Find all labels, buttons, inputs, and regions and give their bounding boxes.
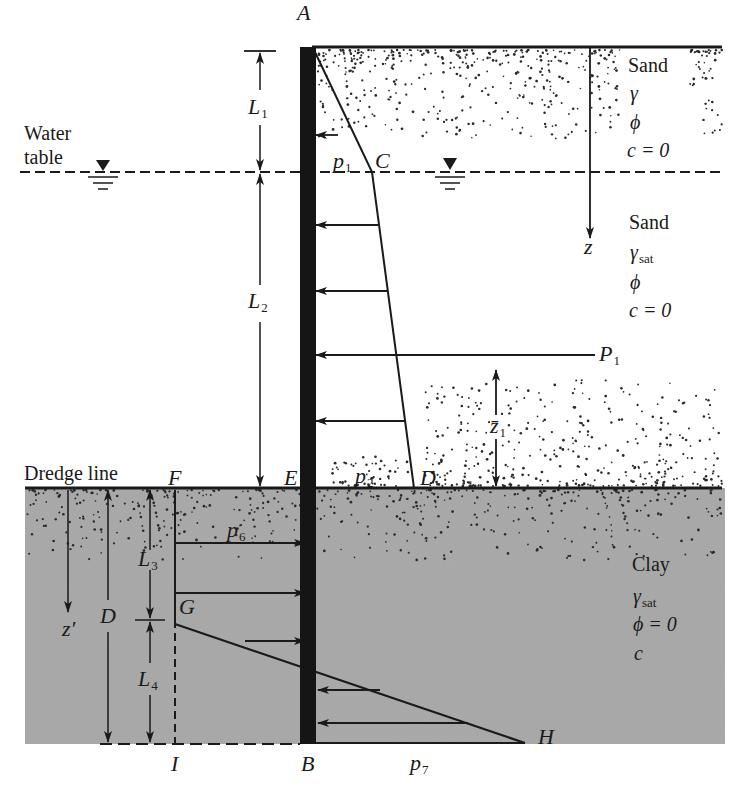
p7-label: p7 [410, 752, 429, 776]
p6-label: p6 [227, 519, 246, 543]
point-a-label: A [297, 2, 310, 24]
point-b-label: B [301, 753, 314, 775]
point-e-label: E [284, 467, 297, 489]
resultant-p1-label: P1 [599, 343, 620, 367]
sheet-pile-diagram: A C D E F G H I B L1 L2 L3 L4 D z′ z z̄1… [0, 0, 748, 788]
z1-bar-label: z̄1 [490, 415, 506, 439]
p1-label: p1 [333, 150, 352, 174]
clay-cohesion: c [634, 643, 643, 663]
water-table-symbol-left [88, 160, 118, 189]
sand-sat-phi: ϕ [630, 272, 640, 292]
dredge-line-label: Dredge line [24, 463, 118, 483]
point-g-label: G [179, 596, 195, 618]
water-table-symbol-right [435, 158, 465, 189]
d-label: D [100, 605, 116, 627]
p2-label: p2 [355, 465, 374, 489]
l4-label: L4 [138, 668, 158, 692]
sheet-pile [300, 47, 316, 744]
l1-label: L1 [248, 96, 268, 120]
sand-dry-name: Sand [628, 55, 668, 75]
point-f-label: F [168, 467, 181, 489]
clay-gamma: γsat [633, 586, 656, 609]
sand-stipple [27, 49, 724, 562]
point-h-label: H [538, 726, 554, 748]
sand-dry-gamma: γ [630, 83, 638, 103]
clay-name: Clay [632, 554, 670, 574]
water-label-line2: table [24, 147, 63, 167]
water-label-line1: Water [24, 123, 71, 143]
active-pressure-arrows [316, 135, 595, 421]
clay-phi: ϕ = 0 [633, 614, 677, 634]
point-d-label: D [420, 467, 436, 489]
point-c-label: C [375, 150, 390, 172]
active-pressure-line [314, 50, 414, 488]
sand-sat-name: Sand [629, 212, 669, 232]
sand-dry-phi: ϕ [630, 112, 640, 132]
l2-label: L2 [248, 290, 268, 314]
z-label: z [584, 236, 593, 258]
clay-layer [25, 488, 725, 744]
sand-sat-gamma: γsat [630, 242, 653, 265]
sand-sat-cohesion: c = 0 [629, 300, 671, 320]
l3-label: L3 [138, 548, 158, 572]
point-i-label: I [171, 753, 178, 775]
sand-dry-cohesion: c = 0 [627, 140, 669, 160]
z-prime-label: z′ [62, 618, 75, 640]
